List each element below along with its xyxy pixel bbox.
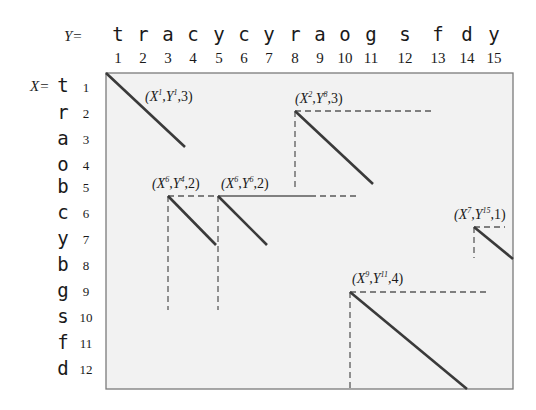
match-label: (X9,Y11,4): [352, 270, 403, 287]
x-indices: 1 2 3 4 5 6 7 8 9 10 11 12: [80, 80, 93, 377]
x-index: 8: [83, 258, 90, 273]
y-char: d: [461, 23, 472, 45]
match-label: (X6,Y6,2): [221, 175, 269, 192]
y-char: y: [488, 23, 499, 45]
x-char: d: [57, 357, 68, 379]
y-char: y: [263, 23, 274, 45]
x-index: 9: [83, 284, 90, 299]
x-char: b: [57, 175, 68, 197]
y-indices: 1 2 3 4 5 6 7 8 9 10 11 12 13 14 15: [114, 50, 501, 66]
match-matrix-box: [106, 73, 513, 389]
x-sequence: t r a o b c y b g s f d: [57, 74, 68, 379]
x-char: y: [57, 227, 68, 249]
y-sequence: t r a c y c y r a o g s f d y: [112, 23, 499, 45]
y-char: t: [112, 23, 123, 45]
x-index: 5: [83, 180, 90, 195]
match-label: (X7,Y15,1): [454, 206, 506, 223]
y-char: c: [187, 23, 198, 45]
y-char: y: [213, 23, 224, 45]
match-diagram: Y= t r a c y c y r a o g s f d y 1 2 3 4…: [0, 0, 536, 410]
y-char: r: [137, 23, 148, 45]
x-index: 4: [83, 158, 90, 173]
y-index: 14: [460, 50, 476, 66]
y-index: 5: [215, 50, 223, 66]
y-char: g: [365, 23, 376, 45]
y-index: 7: [265, 50, 273, 66]
y-index: 15: [487, 50, 502, 66]
y-char: s: [399, 23, 410, 45]
y-index: 3: [164, 50, 172, 66]
x-char: a: [57, 127, 68, 149]
y-char: r: [289, 23, 300, 45]
y-char: o: [339, 23, 350, 45]
y-char: c: [238, 23, 249, 45]
x-char: c: [57, 201, 68, 223]
y-char: f: [432, 23, 443, 45]
x-index: 6: [83, 206, 90, 221]
y-index: 9: [316, 50, 324, 66]
y-index: 6: [240, 50, 248, 66]
y-index: 4: [189, 50, 197, 66]
x-index: 10: [80, 310, 93, 325]
x-index: 1: [83, 80, 90, 95]
x-index: 11: [80, 336, 93, 351]
x-index: 12: [80, 362, 93, 377]
y-index: 13: [431, 50, 446, 66]
y-index: 12: [398, 50, 413, 66]
x-index: 3: [83, 132, 90, 147]
x-char: s: [57, 305, 68, 327]
y-index: 11: [364, 50, 378, 66]
match-label: (X1,Y1,3): [145, 88, 193, 105]
y-prefix-label: Y=: [64, 28, 82, 44]
x-char: f: [57, 331, 68, 353]
y-index: 8: [291, 50, 299, 66]
x-prefix-label: X=: [29, 78, 49, 94]
x-char: g: [57, 279, 68, 301]
x-char: b: [57, 253, 68, 275]
x-char: t: [57, 74, 68, 96]
x-index: 7: [83, 232, 90, 247]
y-index: 1: [114, 50, 122, 66]
y-char: a: [314, 23, 325, 45]
y-index: 10: [338, 50, 353, 66]
x-index: 2: [83, 106, 90, 121]
x-char: o: [57, 153, 68, 175]
match-label: (X6,Y4,2): [152, 175, 200, 192]
x-char: r: [57, 101, 68, 123]
match-label: (X2,Y8,3): [295, 90, 343, 107]
y-char: a: [162, 23, 173, 45]
y-index: 2: [139, 50, 147, 66]
